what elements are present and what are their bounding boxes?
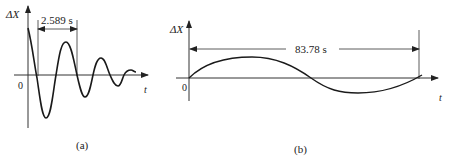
panel-a-period-label: 2.589 s [41,14,73,26]
panel-b-y-axis-label: ΔX [169,23,184,35]
panel-b-period-label: 83.78 s [295,43,327,55]
panel-a-damped-curve [28,28,136,118]
panel-a: ΔX 0 t 2.589 s (a) [5,6,148,152]
panel-a-origin-label: 0 [18,80,23,91]
diagram-canvas: ΔX 0 t 2.589 s (a) ΔX 0 t 83.78 s (b) [0,0,449,158]
panel-b: ΔX 0 t 83.78 s (b) [169,21,442,156]
panel-a-caption: (a) [76,139,89,152]
panel-a-x-axis-label: t [144,84,147,95]
panel-b-caption: (b) [294,143,307,156]
panel-b-origin-label: 0 [182,82,187,93]
panel-b-sine-curve [189,57,422,93]
panel-a-y-axis-label: ΔX [5,8,20,20]
panel-b-x-axis-label: t [439,92,442,103]
